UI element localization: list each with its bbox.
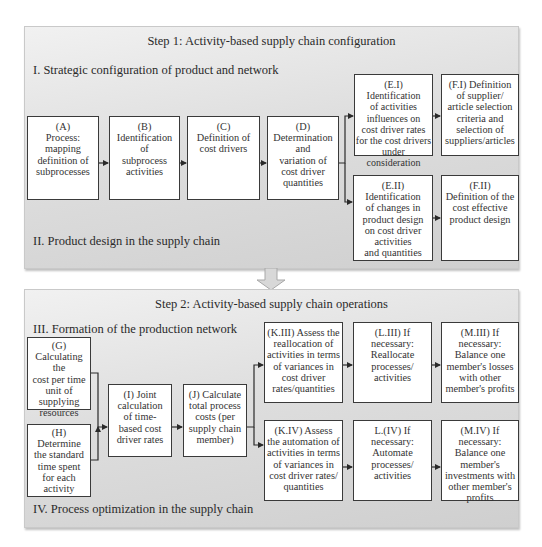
box-text-line: for each <box>28 472 90 483</box>
box-text-line: for the cost drivers <box>355 135 432 146</box>
box-text-line: activities in terms <box>265 349 342 360</box>
box-text-line: reallocation of <box>265 338 342 349</box>
box-text-line: (F.II) <box>442 180 518 191</box>
box-g-cost-per-time-unit: (G)Calculating thecost per timeunit ofsu… <box>27 337 91 410</box>
box-text-line: product design <box>354 214 432 225</box>
box-text-line: cost effective <box>442 202 518 213</box>
box-text-line: based cost <box>109 423 171 434</box>
box-text-line: profits <box>442 492 518 503</box>
box-text-line: necessary: <box>354 436 431 447</box>
box-text-line: and quantities <box>354 247 432 258</box>
box-miv-balance-investments: (M.IV) Ifnecessary:Balance onemember'sin… <box>441 420 519 501</box>
box-text-line: (M.IV) If <box>442 425 518 436</box>
box-text-line: member's losses <box>442 361 518 372</box>
box-text-line: of <box>110 143 179 154</box>
box-eii-product-design-changes: (E.II)Identificationof changes inproduct… <box>353 175 433 261</box>
box-fi-supplier-selection: (F.I) Definitionof supplier/article sele… <box>441 74 519 156</box>
box-text-line: (B) <box>110 121 179 132</box>
box-text-line: Definition of <box>188 132 259 143</box>
box-text-line: subprocesses <box>28 166 98 177</box>
box-text-line: cost drivers <box>188 143 259 154</box>
box-text-line: quantities <box>265 481 342 492</box>
box-text-line: criteria and <box>442 113 518 124</box>
box-text-line: member) <box>184 434 246 445</box>
box-text-line: (J) Calculate <box>184 389 246 400</box>
box-text-line: (F.I) Definition <box>442 79 518 90</box>
box-text-line: Reallocate <box>354 349 431 360</box>
box-text-line: processes/ <box>354 459 431 470</box>
box-text-line: quantities <box>268 177 338 188</box>
box-text-line: activities <box>354 470 431 481</box>
box-text-line: processes/ <box>354 361 431 372</box>
box-d-driver-quantities: (D)Determinationandvariation ofcost driv… <box>267 116 339 200</box>
box-text-line: (E.II) <box>354 180 432 191</box>
box-text-line: Automate <box>354 447 431 458</box>
box-text-line: of variances in <box>265 459 342 470</box>
box-text-line: rates/quantities <box>265 383 342 394</box>
box-text-line: investments with <box>442 470 518 481</box>
box-text-line: (E.I) <box>355 79 432 90</box>
box-text-line: activities in terms <box>265 447 342 458</box>
box-text-line: Process: <box>28 132 98 143</box>
box-kiv-assess-automation: (K.IV) Assessthe automation ofactivities… <box>264 420 343 501</box>
box-text-line: of changes in <box>354 202 432 213</box>
box-text-line: Identification <box>354 191 432 202</box>
box-text-line: Balance one <box>442 447 518 458</box>
box-text-line: mapping <box>28 143 98 154</box>
step1-title: Step 1: Activity-based supply chain conf… <box>25 34 518 49</box>
box-text-line: (C) <box>188 121 259 132</box>
box-text-line: Definition of the <box>442 191 518 202</box>
box-text-line: activity <box>28 483 90 494</box>
box-text-line: necessary: <box>442 436 518 447</box>
box-text-line: Identification <box>355 90 432 101</box>
box-a-process-mapping: (A)Process:mappingdefinition ofsubproces… <box>27 116 99 200</box>
box-text-line: Calculating the <box>28 351 90 373</box>
box-text-line: (M.III) If <box>442 327 518 338</box>
box-text-line: suppliers/articles <box>442 135 518 146</box>
box-text-line: other member's <box>442 481 518 492</box>
box-text-line: L.(IV) If <box>354 425 431 436</box>
box-text-line: Determination <box>268 132 338 143</box>
box-text-line: cost driver <box>265 372 342 383</box>
box-text-line: product design <box>442 214 518 225</box>
box-i-joint-driver-rates: (I) Jointcalculationof time-based costdr… <box>108 384 172 457</box>
box-miii-balance-losses: (M.III) Ifnecessary:Balance onemember's … <box>441 322 519 403</box>
box-text-line: (K.IV) Assess <box>265 425 342 436</box>
box-text-line: (I) Joint <box>109 389 171 400</box>
box-text-line: with other <box>442 372 518 383</box>
box-text-line: activities <box>354 372 431 383</box>
box-text-line: (A) <box>28 121 98 132</box>
box-text-line: (L.III) If <box>354 327 431 338</box>
box-text-line: of variances in <box>265 361 342 372</box>
box-text-line: time spent <box>28 461 90 472</box>
box-text-line: selection of <box>442 124 518 135</box>
box-text-line: total process <box>184 400 246 411</box>
box-text-line: the standard <box>28 449 90 460</box>
box-b-subprocess-activities: (B)Identificationofsubprocessactivities <box>109 116 180 200</box>
box-text-line: of time- <box>109 411 171 422</box>
box-text-line: article selection <box>442 101 518 112</box>
box-text-line: and <box>268 143 338 154</box>
box-text-line: under consideration <box>355 146 432 168</box>
box-kiii-assess-reallocation: (K.III) Assess thereallocation ofactivit… <box>264 322 343 403</box>
box-text-line: definition of <box>28 155 98 166</box>
box-text-line: (H) <box>28 427 90 438</box>
box-text-line: Identification <box>110 132 179 143</box>
box-text-line: influences on <box>355 113 432 124</box>
box-c-cost-drivers: (C)Definition ofcost drivers <box>187 116 260 200</box>
box-text-line: cost per time <box>28 374 90 385</box>
box-text-line: necessary: <box>354 338 431 349</box>
section-ii-label: II. Product design in the supply chain <box>33 234 220 249</box>
box-text-line: cost driver rates <box>355 124 432 135</box>
box-text-line: Determine <box>28 438 90 449</box>
box-liii-reallocate: (L.III) Ifnecessary:Reallocateprocesses/… <box>353 322 432 403</box>
section-iv-label: IV. Process optimization in the supply c… <box>33 502 253 517</box>
box-ei-activity-influences: (E.I)Identificationof activitiesinfluenc… <box>354 74 433 156</box>
box-text-line: member's <box>442 459 518 470</box>
box-text-line: cost driver <box>268 166 338 177</box>
box-text-line: supply chain <box>184 423 246 434</box>
box-text-line: member's profits <box>442 383 518 394</box>
box-fii-cost-effective-design: (F.II)Definition of thecost effectivepro… <box>441 175 519 261</box>
box-text-line: activities <box>354 236 432 247</box>
box-text-line: supplying <box>28 396 90 407</box>
